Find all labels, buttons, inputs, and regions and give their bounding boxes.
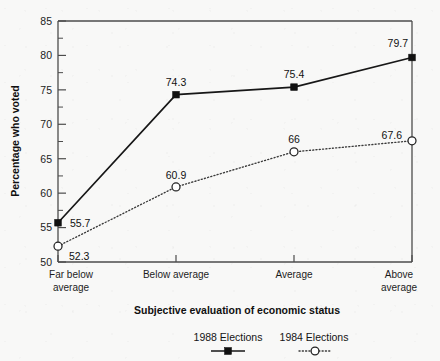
data-point-label: 60.9 xyxy=(166,169,187,181)
data-point-marker xyxy=(55,219,62,226)
y-tick-label: 80 xyxy=(40,49,52,61)
x-category-label: Above xyxy=(385,269,414,280)
y-tick-label: 70 xyxy=(40,118,52,130)
data-point-marker xyxy=(291,84,298,91)
data-point-label: 75.4 xyxy=(284,68,305,80)
x-category-label: Average xyxy=(275,269,313,280)
x-axis-title: Subjective evaluation of economic status xyxy=(134,304,340,316)
legend-marker-circle-icon xyxy=(311,347,319,355)
legend-label-1984: 1984 Elections xyxy=(280,331,349,343)
series-line-2 xyxy=(58,141,412,246)
data-point-marker xyxy=(54,242,62,250)
data-point-marker xyxy=(408,137,416,145)
data-point-label: 52.3 xyxy=(69,250,90,262)
y-axis-title: Percentage who voted xyxy=(9,85,21,196)
data-point-label: 67.6 xyxy=(382,129,403,141)
chart-legend: 1988 Elections 1984 Elections xyxy=(194,331,349,355)
y-tick-label: 65 xyxy=(40,153,52,165)
data-point-label: 79.7 xyxy=(388,37,409,49)
y-tick-label: 55 xyxy=(40,221,52,233)
legend-label-1988: 1988 Elections xyxy=(194,331,263,343)
y-tick-label: 85 xyxy=(40,15,52,27)
y-tick-label: 60 xyxy=(40,187,52,199)
legend-swatch-1984 xyxy=(299,347,331,355)
x-category-label: Far below xyxy=(49,269,94,280)
data-point-marker xyxy=(409,54,416,61)
chart-svg: 5055606570758085 Percentage who voted 55… xyxy=(0,0,440,361)
x-category-label: average xyxy=(381,282,418,293)
data-point-marker xyxy=(172,183,180,191)
data-point-label: 66 xyxy=(288,133,300,145)
y-axis-tick-labels: 5055606570758085 xyxy=(40,15,52,268)
series-layer xyxy=(54,54,416,250)
x-category-label: Below average xyxy=(143,269,210,280)
chart-figure: 5055606570758085 Percentage who voted 55… xyxy=(0,0,440,361)
y-tick-label: 50 xyxy=(40,256,52,268)
data-point-label: 55.7 xyxy=(70,217,91,229)
legend-swatch-1988 xyxy=(211,348,245,355)
y-tick-label: 75 xyxy=(40,84,52,96)
data-point-marker xyxy=(173,91,180,98)
plot-frame xyxy=(58,21,412,262)
legend-marker-square-icon xyxy=(225,348,232,355)
data-point-label: 74.3 xyxy=(166,76,187,88)
x-axis-category-labels: Far belowaverageBelow averageAverageAbov… xyxy=(49,269,417,293)
data-point-marker xyxy=(290,148,298,156)
x-category-label: average xyxy=(53,282,90,293)
series-line-1 xyxy=(58,57,412,222)
x-axis-ticks xyxy=(58,255,412,262)
